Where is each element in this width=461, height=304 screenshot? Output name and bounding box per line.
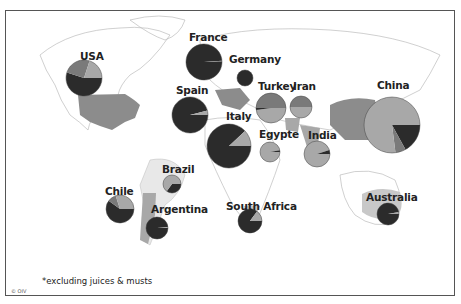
pie-france xyxy=(186,44,222,80)
country-label-china: China xyxy=(377,79,409,91)
pie-iran xyxy=(290,96,312,118)
pie-germany xyxy=(237,70,253,86)
country-label-india: India xyxy=(308,129,337,141)
pie-slice-medium xyxy=(256,93,286,108)
pie-italy xyxy=(207,124,251,168)
country-label-brazil: Brazil xyxy=(162,163,194,175)
land-usa xyxy=(78,94,140,130)
pie-brazil xyxy=(163,175,181,193)
pie-slice-medium xyxy=(290,96,312,107)
pie-turkey xyxy=(256,93,286,123)
pie-china xyxy=(364,97,420,153)
country-label-spain: Spain xyxy=(176,84,208,96)
pie-south-africa xyxy=(238,209,262,233)
pie-india xyxy=(304,141,330,167)
pie-argentina xyxy=(146,217,168,239)
world-map xyxy=(0,0,461,304)
country-label-germany: Germany xyxy=(229,53,281,65)
country-label-usa: USA xyxy=(80,50,104,62)
pie-slice-light xyxy=(290,107,312,118)
land-europe xyxy=(215,88,250,110)
country-label-argentina: Argentina xyxy=(151,203,208,215)
pie-usa xyxy=(66,60,102,96)
country-label-italy: Italy xyxy=(226,110,251,122)
pie-egypte xyxy=(260,142,280,162)
country-label-egypte: Egypte xyxy=(259,128,299,140)
country-label-france: France xyxy=(189,31,227,43)
country-label-iran: Iran xyxy=(293,80,316,92)
pie-spain xyxy=(172,97,208,133)
country-label-chile: Chile xyxy=(105,185,134,197)
country-label-australia: Australia xyxy=(366,191,418,203)
footnote: *excluding juices & musts xyxy=(42,276,152,286)
copyright: © OIV xyxy=(11,288,26,294)
pie-chile xyxy=(106,195,134,223)
pie-australia xyxy=(377,203,399,225)
country-label-south-africa: South Africa xyxy=(226,200,297,212)
country-label-turkey: Turkey xyxy=(258,80,296,92)
